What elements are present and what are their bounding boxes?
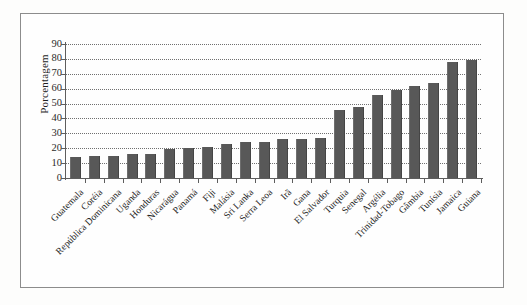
y-axis-tick-mark	[61, 104, 65, 105]
y-axis-tick-label: 50	[40, 98, 62, 109]
y-axis-tick-label: 80	[40, 53, 62, 64]
y-axis-tick-mark	[61, 44, 65, 45]
y-axis-tick-mark	[61, 89, 65, 90]
y-axis-tick-mark	[61, 178, 65, 179]
gridline	[66, 59, 481, 60]
y-axis-tick-mark	[61, 133, 65, 134]
y-axis-tick-label: 30	[40, 128, 62, 139]
chart-page: Porcentagem 0102030405060708090 Guatemal…	[0, 0, 527, 305]
bar	[447, 62, 458, 178]
bar	[466, 60, 477, 178]
y-axis-tick-mark	[61, 148, 65, 149]
y-axis-tick-label: 90	[40, 39, 62, 50]
y-axis-tick-mark	[61, 74, 65, 75]
gridline	[66, 74, 481, 75]
bar	[70, 157, 81, 178]
plot-area	[66, 44, 481, 178]
bar	[221, 144, 232, 178]
y-axis-tick-labels: 0102030405060708090	[36, 0, 62, 305]
y-axis-tick-label: 60	[40, 83, 62, 94]
y-axis-tick-label: 40	[40, 113, 62, 124]
y-axis-tick-label: 70	[40, 68, 62, 79]
y-axis-tick-mark	[61, 59, 65, 60]
y-axis-tick-mark	[61, 118, 65, 119]
gridline	[66, 44, 481, 45]
y-axis-tick-label: 0	[40, 173, 62, 184]
y-axis-tick-label: 10	[40, 158, 62, 169]
bar	[409, 86, 420, 178]
y-axis-tick-label: 20	[40, 143, 62, 154]
y-axis-tick-mark	[61, 163, 65, 164]
